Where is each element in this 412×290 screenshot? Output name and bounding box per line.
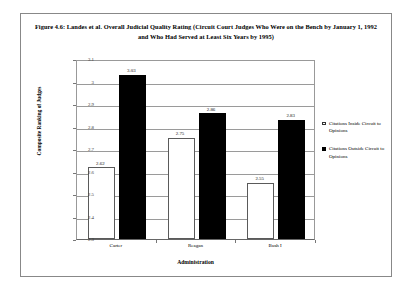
y-axis-tick-mark bbox=[73, 240, 76, 241]
y-axis-tick-mark bbox=[73, 105, 76, 106]
y-axis-tick-label: 2.6 bbox=[68, 170, 94, 175]
y-axis-tick-mark bbox=[73, 60, 76, 61]
bar-value-label: 2.83 bbox=[269, 113, 312, 118]
bar-value-label: 2.62 bbox=[79, 161, 122, 166]
x-axis-tick-mark bbox=[235, 240, 236, 243]
y-axis-tick-label: 2.9 bbox=[68, 102, 94, 107]
x-axis-tick-label: Bush I bbox=[245, 243, 305, 248]
x-axis-tick-mark bbox=[156, 240, 157, 243]
x-axis-tick-label: Carter bbox=[86, 243, 146, 248]
y-axis-tick-mark bbox=[73, 173, 76, 174]
legend-swatch-outside-icon bbox=[322, 147, 326, 151]
legend-item-inside: Citations Inside Circuit to Opinions bbox=[322, 120, 392, 134]
y-axis-tick-label: 3 bbox=[68, 80, 94, 85]
x-axis-tick-label: Reagan bbox=[166, 243, 226, 248]
y-axis-tick-mark bbox=[73, 218, 76, 219]
legend-swatch-inside-icon bbox=[322, 122, 326, 126]
bar-value-label: 2.55 bbox=[238, 176, 281, 181]
figure-page: Figure 4.6: Landes et al. Overall Judici… bbox=[0, 0, 412, 290]
x-axis-title: Administration bbox=[76, 259, 315, 265]
y-axis-tick-mark bbox=[73, 128, 76, 129]
x-axis-tick-mark bbox=[315, 240, 316, 243]
bar-value-label: 2.86 bbox=[190, 107, 233, 112]
y-axis-tick-label: 2.5 bbox=[68, 192, 94, 197]
legend-item-outside: Citations Outside Circuit to Opinions bbox=[322, 145, 392, 159]
y-axis-tick-mark bbox=[73, 150, 76, 151]
y-axis-tick-mark bbox=[73, 83, 76, 84]
y-axis-tick-mark bbox=[73, 195, 76, 196]
bar-carter-inside bbox=[88, 167, 115, 239]
legend-label-outside: Citations Outside Circuit to Opinions bbox=[329, 146, 384, 158]
chart-legend: Citations Inside Circuit to Opinions Cit… bbox=[322, 120, 392, 171]
y-axis-tick-label: 2.3 bbox=[68, 237, 94, 242]
bar-bush-i-outside bbox=[278, 120, 305, 239]
plot-area bbox=[76, 60, 315, 240]
bar-value-label: 2.75 bbox=[159, 131, 202, 136]
y-axis-tick-label: 2.8 bbox=[68, 125, 94, 130]
bar-value-label: 3.03 bbox=[110, 68, 153, 73]
y-axis-title: Composite Ranking of Judges bbox=[36, 61, 42, 181]
gridline bbox=[77, 84, 314, 85]
y-axis-tick-label: 3.1 bbox=[68, 57, 94, 62]
chart-title: Figure 4.6: Landes et al. Overall Judici… bbox=[30, 22, 382, 41]
y-axis-tick-label: 2.4 bbox=[68, 215, 94, 220]
bar-bush-i-inside bbox=[247, 183, 274, 239]
y-axis-tick-label: 2.7 bbox=[68, 147, 94, 152]
bar-reagan-inside bbox=[168, 138, 195, 239]
bar-carter-outside bbox=[119, 75, 146, 239]
bar-reagan-outside bbox=[199, 113, 226, 239]
legend-label-inside: Citations Inside Circuit to Opinions bbox=[329, 121, 381, 133]
